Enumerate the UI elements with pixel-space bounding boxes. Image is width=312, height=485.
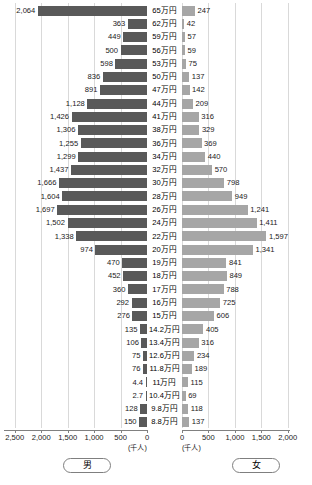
male-bar <box>59 178 147 188</box>
female-axis-1000-ticklabel: 1,000 <box>225 434 244 442</box>
female-value-label: 725 <box>220 299 235 307</box>
male-bar <box>78 125 147 135</box>
male-value-label: 1,338 <box>55 233 77 241</box>
female-value-label: 1,241 <box>248 206 270 214</box>
female-bar <box>182 85 190 95</box>
male-value-label: 974 <box>80 246 95 254</box>
unit-label-right: (千人) <box>182 444 201 451</box>
male-bar <box>140 324 147 334</box>
male-value-label: 135 <box>125 326 140 334</box>
female-value-label: 440 <box>205 153 220 161</box>
male-bar <box>128 284 147 294</box>
male-value-label: 360 <box>113 286 128 294</box>
male-value-label: 1,128 <box>66 100 88 108</box>
population-pyramid-chart: 2,06465万円24736362万円4244959万円5750056万円595… <box>0 0 312 485</box>
female-bar <box>182 271 227 281</box>
female-bar <box>182 245 253 255</box>
male-value-label: 363 <box>113 20 128 28</box>
male-axis-500-ticklabel: 500 <box>114 434 127 442</box>
male-bar <box>81 138 147 148</box>
male-value-label: 1,255 <box>59 140 81 148</box>
female-bar <box>182 351 194 361</box>
female-value-label: 209 <box>193 100 208 108</box>
male-axis-1000-ticklabel: 1,000 <box>85 434 104 442</box>
male-value-label: 150 <box>124 418 139 426</box>
female-bar <box>182 112 199 122</box>
female-axis-0-ticklabel: 0 <box>180 434 184 442</box>
female-bar <box>182 191 232 201</box>
female-bar <box>182 205 248 215</box>
male-value-label: 449 <box>108 33 123 41</box>
female-bar <box>182 338 199 348</box>
female-value-label: 137 <box>189 418 204 426</box>
female-bar <box>182 298 220 308</box>
male-bar <box>103 72 147 82</box>
male-bar <box>123 271 147 281</box>
male-value-label: 128 <box>125 405 140 413</box>
male-bar <box>62 191 147 201</box>
male-value-label: 470 <box>107 259 122 267</box>
male-value-label: 1,697 <box>36 206 58 214</box>
female-value-label: 606 <box>214 312 229 320</box>
female-bar <box>182 72 189 82</box>
female-bar <box>182 324 203 334</box>
male-value-label: 1,306 <box>56 126 78 134</box>
male-bar <box>87 99 147 109</box>
male-value-label: 106 <box>126 339 141 347</box>
male-value-label: 4.4 <box>132 379 145 387</box>
female-value-label: 798 <box>224 179 239 187</box>
axis-right-line <box>182 430 290 431</box>
male-bar <box>57 205 147 215</box>
female-value-label: 59 <box>185 47 196 55</box>
female-value-label: 405 <box>203 326 218 334</box>
female-value-label: 849 <box>227 272 242 280</box>
male-value-label: 292 <box>116 299 131 307</box>
male-value-label: 1,426 <box>50 113 72 121</box>
female-bar <box>182 178 224 188</box>
male-bar <box>121 45 147 55</box>
female-value-label: 949 <box>232 193 247 201</box>
female-bar <box>182 284 224 294</box>
female-value-label: 142 <box>190 86 205 94</box>
female-bar <box>182 218 257 228</box>
female-value-label: 69 <box>186 392 197 400</box>
female-bar <box>182 99 193 109</box>
male-value-label: 598 <box>100 60 115 68</box>
female-value-label: 118 <box>188 405 203 413</box>
male-value-label: 1,604 <box>41 193 63 201</box>
male-bar <box>95 245 147 255</box>
female-value-label: 42 <box>184 20 195 28</box>
female-value-label: 1,597 <box>266 233 288 241</box>
female-axis-500-ticklabel: 500 <box>202 434 215 442</box>
female-bar <box>182 417 189 427</box>
category-label: 8.8万円 <box>147 415 182 430</box>
male-axis-2500-ticklabel: 2,500 <box>5 434 24 442</box>
female-value-label: 75 <box>186 60 197 68</box>
male-value-label: 500 <box>105 47 120 55</box>
male-bar <box>132 311 147 321</box>
female-value-label: 57 <box>185 33 196 41</box>
female-value-label: 369 <box>202 140 217 148</box>
male-bar <box>71 165 147 175</box>
female-value-label: 570 <box>212 166 227 174</box>
male-value-label: 1,299 <box>57 153 79 161</box>
female-value-label: 788 <box>224 286 239 294</box>
male-value-label: 76 <box>132 365 143 373</box>
male-value-label: 891 <box>85 86 100 94</box>
female-bar <box>182 6 195 16</box>
female-value-label: 137 <box>189 73 204 81</box>
male-bar <box>78 152 147 162</box>
female-value-label: 316 <box>199 113 214 121</box>
male-bar-group: 150 <box>0 415 147 430</box>
male-value-label: 2.7 <box>132 392 145 400</box>
female-axis-2000-ticklabel: 2,000 <box>278 434 297 442</box>
male-bar <box>139 417 147 427</box>
male-bar <box>100 85 147 95</box>
bar-row: 1508.8万円137 <box>0 415 312 430</box>
female-bar <box>182 152 205 162</box>
female-value-label: 1,411 <box>257 219 278 227</box>
male-value-label: 276 <box>117 312 132 320</box>
female-value-label: 247 <box>195 7 210 15</box>
male-axis-0-ticklabel: 0 <box>145 434 149 442</box>
male-bar <box>115 59 147 69</box>
